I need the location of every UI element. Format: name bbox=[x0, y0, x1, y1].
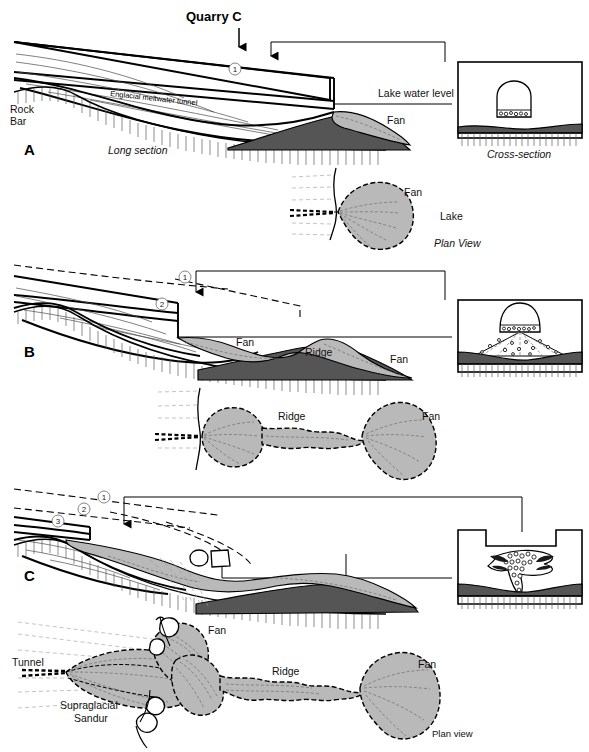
panel-c-letter: C bbox=[24, 567, 35, 584]
panel-c-cross-section-inset bbox=[458, 530, 582, 609]
panel-c-marker-3: 3 bbox=[52, 515, 64, 527]
panel-a-tunnel-arch bbox=[497, 81, 531, 117]
panel-b-ridge-label: Ridge bbox=[305, 346, 333, 358]
panel-b-marker-2: 2 bbox=[156, 298, 168, 310]
panel-b-fan-upper-label: Fan bbox=[236, 336, 254, 348]
panel-a-plan-view: Fan Lake Plan View bbox=[290, 168, 482, 249]
panel-b-fan-ridge-deposits bbox=[178, 337, 412, 380]
panel-b-fan-lower-label: Fan bbox=[390, 353, 408, 365]
panel-c-plan-view-label: Plan view bbox=[432, 728, 473, 739]
panel-a-plan-lake-label: Lake bbox=[440, 210, 463, 222]
panel-c-plan-view: Tunnel Fan Supraglacial Sandur Ridge Fan… bbox=[12, 617, 473, 748]
panel-a-plan-fan-label: Fan bbox=[404, 186, 422, 198]
panel-b-cross-section-inset bbox=[458, 300, 582, 377]
panel-b: Fan Ridge Fan B 1 2 bbox=[14, 265, 582, 480]
panel-a-marker-1-label: 1 bbox=[233, 65, 238, 74]
panel-a-long-section-label: Long section bbox=[108, 144, 168, 156]
panel-c-plan-tunnel-line2 bbox=[22, 673, 66, 676]
panel-c-plan-tunnel-line1 bbox=[22, 670, 66, 671]
panel-a: Rock Bar Englacial meltwater tunnel Lake… bbox=[10, 42, 582, 249]
panel-c-ice-block-2 bbox=[211, 550, 230, 567]
panel-b-former-ice-surfaces bbox=[14, 265, 300, 320]
panel-c-supraglacial-label-line2: Sandur bbox=[74, 712, 108, 724]
panel-b-marker-1-label: 1 bbox=[183, 273, 188, 282]
diagram-canvas: Quarry C bbox=[0, 0, 589, 752]
panel-a-letter: A bbox=[24, 141, 35, 158]
panel-c-plan-fan-upper-label: Fan bbox=[208, 624, 226, 636]
panel-a-callout-bracket bbox=[271, 42, 445, 62]
rock-bar-label-line1: Rock bbox=[10, 103, 35, 115]
panel-a-cross-section-inset: Cross-section bbox=[458, 62, 582, 160]
panel-c-tunnel-label: Tunnel bbox=[12, 656, 44, 668]
figure-title: Quarry C bbox=[186, 9, 242, 24]
panel-a-cross-section-label: Cross-section bbox=[487, 148, 551, 160]
panel-a-plan-tunnel bbox=[290, 210, 334, 212]
panel-c-marker-1: 1 bbox=[98, 491, 110, 503]
panel-b-letter: B bbox=[24, 343, 35, 360]
panel-c-plan-fan-right-label: Fan bbox=[418, 658, 436, 670]
panel-a-plan-view-label: Plan View bbox=[434, 237, 482, 249]
panel-c: C 1 2 3 bbox=[12, 489, 582, 748]
panel-c-supraglacial-label-line1: Supraglacial bbox=[60, 699, 118, 711]
rock-bar-label-line2: Bar bbox=[10, 115, 27, 127]
panel-c-ice-block-1 bbox=[190, 550, 208, 566]
panel-b-callout-bracket bbox=[196, 271, 445, 300]
panel-c-marker-3-label: 3 bbox=[56, 517, 61, 526]
panel-c-plan-ridge-label: Ridge bbox=[272, 665, 300, 677]
panel-b-plan-ridge-label: Ridge bbox=[278, 410, 306, 422]
panel-a-fan-label: Fan bbox=[387, 114, 405, 126]
panel-b-plan-view: Ridge Fan bbox=[155, 388, 440, 480]
panel-b-marker-2-label: 2 bbox=[160, 300, 165, 309]
panel-b-plan-fan-label: Fan bbox=[422, 410, 440, 422]
panel-c-marker-1-label: 1 bbox=[102, 493, 107, 502]
panel-c-marker-2: 2 bbox=[78, 503, 90, 515]
panel-b-marker-1: 1 bbox=[179, 271, 191, 283]
panel-a-fan-deposits bbox=[228, 112, 410, 150]
lake-water-level-label: Lake water level bbox=[378, 87, 454, 99]
panel-c-marker-2-label: 2 bbox=[82, 505, 87, 514]
figure-root: Quarry C bbox=[0, 0, 589, 752]
panel-a-marker-1: 1 bbox=[229, 63, 241, 75]
